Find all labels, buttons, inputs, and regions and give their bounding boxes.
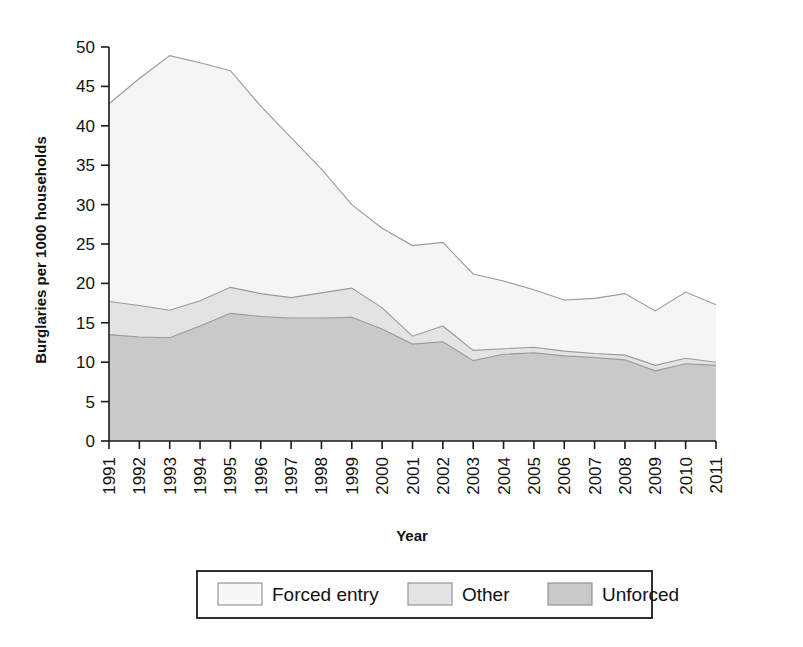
y-tick-label: 25 xyxy=(76,235,95,254)
x-axis-ticks xyxy=(109,441,716,449)
x-tick-label: 2000 xyxy=(373,457,392,495)
legend-label-forced-entry: Forced entry xyxy=(272,584,379,605)
x-tick-label: 1993 xyxy=(161,457,180,495)
x-tick-label: 2003 xyxy=(464,457,483,495)
burglary-stacked-area-chart: 05101520253035404550 1991199219931994199… xyxy=(0,0,803,647)
y-tick-label: 10 xyxy=(76,353,95,372)
y-axis-title: Burglaries per 1000 households xyxy=(32,136,49,364)
legend-swatch-forced-entry xyxy=(218,583,262,605)
x-tick-label: 2006 xyxy=(555,457,574,495)
y-tick-label: 15 xyxy=(76,314,95,333)
y-tick-label: 20 xyxy=(76,274,95,293)
x-tick-label: 2002 xyxy=(434,457,453,495)
x-tick-label: 2007 xyxy=(586,457,605,495)
x-axis-tick-labels: 1991199219931994199519961997199819992000… xyxy=(100,457,726,495)
x-tick-label: 2011 xyxy=(707,457,726,494)
y-tick-label: 45 xyxy=(76,77,95,96)
legend: Forced entryOtherUnforced xyxy=(197,571,679,618)
legend-label-unforced: Unforced xyxy=(602,584,679,605)
y-tick-label: 35 xyxy=(76,156,95,175)
x-tick-label: 1992 xyxy=(130,457,149,495)
x-tick-label: 1996 xyxy=(252,457,271,495)
x-tick-label: 1991 xyxy=(100,457,119,495)
legend-swatch-other xyxy=(408,583,452,605)
x-tick-label: 1999 xyxy=(343,457,362,495)
x-tick-label: 2008 xyxy=(616,457,635,495)
y-tick-label: 40 xyxy=(76,117,95,136)
y-tick-label: 30 xyxy=(76,196,95,215)
x-tick-label: 1995 xyxy=(221,457,240,495)
legend-items: Forced entryOtherUnforced xyxy=(218,583,679,605)
x-tick-label: 2005 xyxy=(525,457,544,495)
x-tick-label: 1997 xyxy=(282,457,301,495)
legend-label-other: Other xyxy=(462,584,510,605)
x-tick-label: 2001 xyxy=(404,457,423,495)
y-tick-label: 5 xyxy=(86,393,95,412)
y-tick-label: 0 xyxy=(86,432,95,451)
x-tick-label: 2004 xyxy=(495,457,514,495)
y-tick-label: 50 xyxy=(76,38,95,57)
x-tick-label: 2010 xyxy=(677,457,696,495)
x-axis-title: Year xyxy=(396,527,428,544)
x-tick-label: 1998 xyxy=(312,457,331,495)
legend-swatch-unforced xyxy=(548,583,592,605)
x-tick-label: 2009 xyxy=(646,457,665,495)
x-tick-label: 1994 xyxy=(191,457,210,495)
